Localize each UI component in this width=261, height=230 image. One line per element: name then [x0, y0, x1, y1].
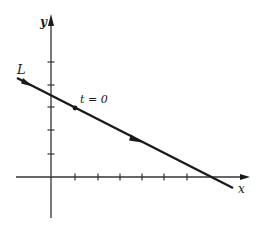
- direction-arrow-icon: [129, 135, 142, 143]
- line-L: L: [16, 62, 233, 188]
- x-axis-label: x: [238, 182, 245, 196]
- diagram-canvas: x y L t = 0: [0, 0, 261, 230]
- y-axis-arrow-icon: [48, 14, 54, 26]
- y-axis-label: y: [39, 15, 48, 29]
- line-label: L: [16, 62, 26, 77]
- direction-arrow-icon: [21, 78, 33, 87]
- point-label: t = 0: [80, 93, 108, 106]
- x-axis-arrow-icon: [240, 174, 250, 180]
- y-axis: y: [39, 14, 55, 218]
